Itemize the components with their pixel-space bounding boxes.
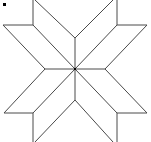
star-edge	[75, 100, 113, 142]
star-edge	[105, 69, 147, 142]
star-edge	[35, 0, 75, 69]
center-dot	[74, 68, 76, 70]
star-edge	[35, 69, 75, 142]
star-edge	[4, 69, 45, 142]
star-edge	[75, 0, 113, 38]
star-diagram	[0, 0, 151, 142]
star-edge	[3, 0, 75, 69]
star-edge	[75, 0, 147, 69]
